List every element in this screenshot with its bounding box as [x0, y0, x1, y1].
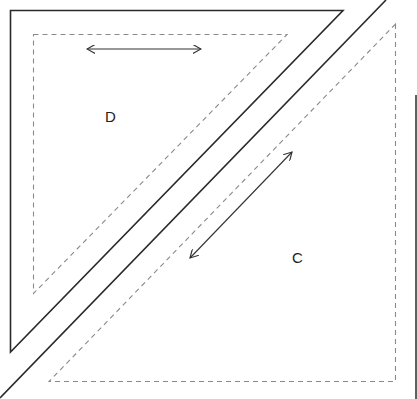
piece-d: D	[11, 11, 344, 353]
piece-d-seam-line	[34, 35, 288, 294]
piece-d-cut-line	[11, 11, 344, 353]
quilt-template-diagram: D C	[0, 0, 417, 399]
piece-c-label: C	[292, 249, 303, 266]
piece-c-grain-arrow-icon	[190, 152, 292, 258]
piece-d-label: D	[105, 108, 116, 125]
piece-c-cut-line-diagonal	[0, 0, 386, 398]
piece-c-seam-line	[49, 24, 396, 382]
piece-c: C	[0, 0, 416, 399]
